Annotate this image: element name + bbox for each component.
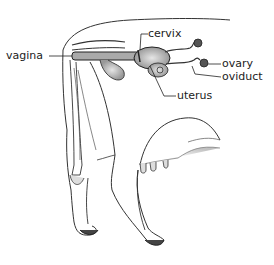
label-uterus: uterus: [177, 90, 212, 102]
cow-reproductive-diagram: vagina cervix ovary oviduct uterus: [0, 0, 274, 265]
label-cervix: cervix: [148, 28, 181, 40]
label-vagina: vagina: [6, 50, 43, 62]
label-ovary: ovary: [222, 58, 253, 70]
oviduct-leader-line: [192, 66, 221, 77]
label-oviduct: oviduct: [222, 71, 263, 83]
cow-illustration: [0, 0, 274, 265]
